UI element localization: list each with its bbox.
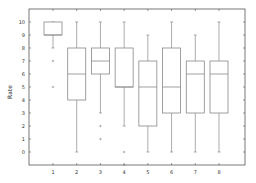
y-tick-label: 3 (22, 110, 25, 116)
box-plot-chart: 012345678910 12345678 Rate (0, 0, 256, 183)
y-tick-label: 9 (22, 32, 25, 38)
box-2 (68, 22, 86, 152)
box-3 (91, 22, 109, 140)
box-4 (115, 22, 133, 166)
x-tick-label: 2 (75, 169, 78, 175)
iqr-box (210, 61, 228, 113)
iqr-box (44, 22, 62, 35)
y-tick-label: 10 (19, 19, 25, 25)
y-tick-label: 5 (22, 84, 25, 90)
x-tick-label: 1 (51, 169, 54, 175)
y-axis-label: Rate (6, 85, 13, 99)
y-tick-label: 4 (22, 97, 25, 103)
iqr-box (186, 61, 204, 113)
x-tick-label: 3 (99, 169, 102, 175)
x-tick-label: 4 (123, 169, 126, 175)
box-series (44, 22, 228, 166)
iqr-box (115, 48, 133, 87)
y-tick-label: 2 (22, 123, 25, 129)
x-tick-label: 7 (194, 169, 197, 175)
y-tick-label: 8 (22, 45, 25, 51)
y-tick-label: 6 (22, 71, 25, 77)
x-tick-label: 6 (170, 169, 173, 175)
y-tick-label: 0 (22, 149, 25, 155)
iqr-box (163, 48, 181, 113)
box-1 (44, 22, 62, 88)
x-tick-label: 8 (217, 169, 220, 175)
iqr-box (139, 61, 157, 126)
box-5 (139, 35, 157, 152)
box-7 (186, 35, 204, 152)
box-6 (163, 22, 181, 152)
x-tick-label: 5 (146, 169, 149, 175)
y-tick-label: 1 (22, 136, 25, 142)
y-tick-label: 7 (22, 58, 25, 64)
box-8 (210, 22, 228, 152)
